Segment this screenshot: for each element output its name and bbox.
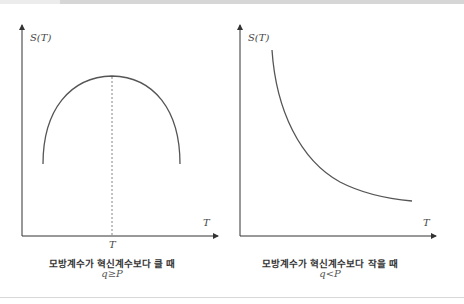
left-x-axis-label: T [203,217,211,228]
right-condition: q<P [319,268,341,279]
left-peak-label: T [109,239,117,250]
right-y-axis-label: S(T) [248,32,269,43]
left-y-axis-label: S(T) [30,32,51,43]
left-condition: q≥P [101,268,123,279]
right-panel: S(T) T [240,25,436,236]
bottom-divider [0,297,464,298]
left-curve-inverted-u [43,76,180,164]
right-x-axis-label: T [423,217,431,228]
right-curve-decreasing [272,50,412,201]
left-panel: S(T) T T [22,25,218,250]
